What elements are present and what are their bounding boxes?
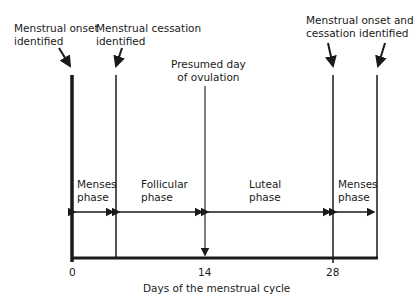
ovulation-annotation-line1: Presumed day: [171, 58, 246, 71]
phase-label-line1: Menses: [77, 178, 117, 191]
tick-day-14: 14: [198, 266, 211, 279]
phase-label-line2: phase: [77, 191, 117, 204]
phase-label-line1: Follicular: [141, 178, 188, 191]
tick-day-0: 0: [69, 266, 76, 279]
axis-label: Days of the menstrual cycle: [143, 282, 290, 295]
phase-menses2-label: Menses phase: [338, 178, 378, 204]
onset-pointer-arrow: [59, 48, 70, 66]
phase-follicular-label: Follicular phase: [141, 178, 188, 204]
cessation-annotation-line2: identified: [96, 35, 201, 48]
cessation-annotation-line1: Menstrual cessation: [96, 22, 201, 35]
onset-annotation-line1: Menstrual onset: [14, 22, 99, 35]
phase-label-line1: Menses: [338, 178, 378, 191]
ovulation-annotation: Presumed day of ovulation: [171, 58, 246, 84]
phase-luteal-label: Luteal phase: [249, 178, 281, 204]
phase-label-line2: phase: [249, 191, 281, 204]
phase-label-line1: Luteal: [249, 178, 281, 191]
tick-day-28: 28: [326, 266, 339, 279]
phase-label-line2: phase: [338, 191, 378, 204]
cessation2-pointer-arrow: [378, 43, 385, 66]
onset-cessation-annotation-line2: cessation identified: [306, 27, 414, 40]
onset-cessation-annotation: Menstrual onset and cessation identified: [306, 14, 414, 40]
ovulation-annotation-line2: of ovulation: [171, 71, 246, 84]
phase-label-line2: phase: [141, 191, 188, 204]
onset-annotation: Menstrual onset identified: [14, 22, 99, 48]
cessation-annotation: Menstrual cessation identified: [96, 22, 201, 48]
onset-annotation-line2: identified: [14, 35, 99, 48]
cessation-pointer-arrow: [116, 48, 122, 66]
onset2-pointer-arrow: [328, 43, 333, 66]
phase-menses-label: Menses phase: [77, 178, 117, 204]
onset-cessation-annotation-line1: Menstrual onset and: [306, 14, 414, 27]
